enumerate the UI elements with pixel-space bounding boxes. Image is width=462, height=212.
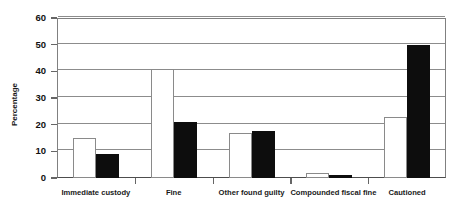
bar-white-2 [229,133,252,178]
x-axis-label-4: Cautioned [368,188,446,197]
bar-white-1 [151,69,174,178]
x-axis-label-0: Immediate custody [57,188,135,197]
bar-white-3 [306,173,329,178]
y-tick-label-40: 40 [0,65,46,76]
bar-black-0 [96,154,119,178]
bar-white-0 [73,138,96,178]
y-tick-label-30: 30 [0,92,46,103]
y-tick-label-10: 10 [0,145,46,156]
x-axis-separator-1 [135,178,136,184]
x-axis-separator-2 [213,178,214,184]
bar-white-4 [384,117,407,178]
x-axis-label-2: Other found guilty [213,188,291,197]
bar-black-2 [252,131,275,178]
x-axis-label-3: Compounded fiscal fine [290,188,368,197]
bar-black-4 [407,45,430,178]
x-axis-separator-3 [290,178,291,184]
bars-layer [57,18,446,178]
y-tick-label-50: 50 [0,39,46,50]
bar-chart: Percentage 0102030405060 Immediate custo… [0,0,462,212]
bar-black-3 [329,175,352,178]
y-tick-label-60: 60 [0,12,46,23]
bar-black-1 [174,122,197,178]
x-axis-label-1: Fine [135,188,213,197]
gridline-60 [58,16,445,17]
y-tick-label-0: 0 [0,172,46,183]
y-tick-label-20: 20 [0,119,46,130]
x-axis-separator-4 [368,178,369,184]
